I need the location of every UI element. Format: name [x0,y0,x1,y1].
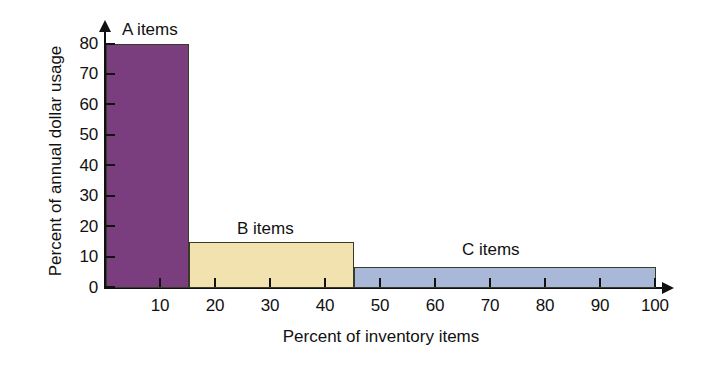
x-tick-70 [489,278,491,287]
x-tick-label-90-wrap: 90 [570,296,630,316]
series-label-b-items: B items [237,219,294,239]
x-tick-label-30-wrap: 30 [240,296,300,316]
x-tick-label-10-wrap: 10 [130,296,190,316]
y-tick-label-40: 40 [64,157,98,174]
x-tick-60 [434,278,436,287]
x-tick-80 [544,278,546,287]
x-tick-50 [379,278,381,287]
x-tick-90 [599,278,601,287]
x-tick-30 [269,278,271,287]
y-tick-70 [106,73,115,75]
series-label-c-items: C items [462,240,520,260]
x-tick-label-100-wrap: 100 [625,296,685,316]
y-axis-title: Percent of annual dollar usage [47,24,65,299]
y-tick-label-20: 20 [64,218,98,235]
x-axis-arrow-icon [662,282,674,294]
y-tick-label-80: 80 [64,35,98,52]
y-tick-label-70: 70 [64,65,98,82]
y-tick-40 [106,164,115,166]
x-tick-label-40-wrap: 40 [295,296,355,316]
x-tick-label-20-wrap: 20 [185,296,245,316]
x-tick-label-70-wrap: 70 [460,296,520,316]
series-label-a-items: A items [122,20,178,40]
x-tick-label-90: 90 [570,296,630,316]
x-tick-20 [214,278,216,287]
abc-analysis-chart-figure: 0 10 20 30 40 50 60 70 80 [0,0,705,371]
chart-plot-area: 0 10 20 30 40 50 60 70 80 [0,0,705,371]
y-tick-10 [106,256,115,258]
y-tick-label-10: 10 [64,248,98,265]
y-tick-label-50: 50 [64,126,98,143]
x-tick-label-50: 50 [350,296,410,316]
x-axis-title: Percent of inventory items [105,327,657,347]
bar-c-items [354,267,657,288]
x-tick-label-30: 30 [240,296,300,316]
bar-a-items [106,44,189,288]
x-tick-label-60-wrap: 60 [405,296,465,316]
x-tick-label-10: 10 [130,296,190,316]
y-tick-label-0: 0 [64,279,98,296]
y-tick-label-30: 30 [64,187,98,204]
x-tick-label-70: 70 [460,296,520,316]
y-tick-20 [106,225,115,227]
x-tick-label-40: 40 [295,296,355,316]
x-tick-label-80: 80 [515,296,575,316]
y-axis-arrow-icon [99,20,111,32]
x-tick-label-60: 60 [405,296,465,316]
y-tick-50 [106,134,115,136]
x-tick-40 [324,278,326,287]
x-tick-label-80-wrap: 80 [515,296,575,316]
y-tick-30 [106,195,115,197]
y-tick-0 [106,286,115,288]
x-tick-label-50-wrap: 50 [350,296,410,316]
x-tick-label-100: 100 [625,296,685,316]
y-tick-60 [106,103,115,105]
y-tick-label-60: 60 [64,96,98,113]
x-tick-label-20: 20 [185,296,245,316]
y-tick-80 [106,43,115,45]
x-tick-10 [159,278,161,287]
x-tick-100 [654,278,656,287]
